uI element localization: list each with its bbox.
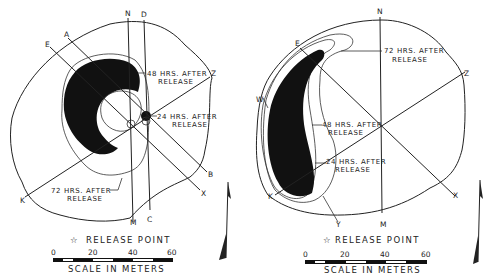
- right-label-W: W: [256, 95, 264, 104]
- left-label-B: B: [208, 170, 213, 179]
- left-scale-bar: 0 20 40 60 SCALE IN METERS: [51, 248, 177, 274]
- left-label-D: D: [141, 10, 147, 19]
- right-scale-tick-60: 60: [421, 250, 431, 259]
- right-annot-48h-1: 48 HRS. AFTER: [322, 121, 382, 129]
- left-annot-48h-1: 48 HRS. AFTER: [147, 70, 207, 78]
- left-scale-tick-60: 60: [167, 248, 177, 257]
- right-annot-72h-1: 72 HRS. AFTER: [384, 47, 444, 55]
- left-label-Z: Z: [211, 69, 216, 78]
- left-annot-24h-1: 24 HRS. AFTER: [157, 113, 217, 121]
- right-plume-24h: [268, 50, 325, 197]
- right-annot-24h-1: 24 HRS. AFTER: [326, 158, 386, 166]
- right-label-Z: Z: [464, 69, 469, 78]
- right-figure: N E Z W K Y M X 72 HRS. AFTER RELEASE 48…: [256, 7, 483, 275]
- left-label-K: K: [20, 196, 26, 205]
- left-scale-tick-20: 20: [88, 248, 98, 257]
- left-label-X: X: [201, 189, 206, 198]
- right-annot-48h-2: RELEASE: [328, 129, 363, 137]
- right-label-N: N: [377, 7, 383, 16]
- left-annot-72h-1: 72 HRS. AFTER: [51, 187, 111, 195]
- right-scale-tick-0: 0: [303, 250, 308, 259]
- right-scale-tick-40: 40: [380, 250, 390, 259]
- diagram-canvas: N D A E Z B X C M K 48 HRS. AFTER RELEAS…: [0, 0, 489, 278]
- right-line-N-M: [380, 17, 382, 213]
- left-annot-72h-2: RELEASE: [67, 195, 102, 203]
- right-north-arrow-icon: [473, 180, 483, 264]
- left-label-C: C: [147, 215, 152, 224]
- left-label-N: N: [125, 9, 131, 18]
- left-figure: N D A E Z B X C M K 48 HRS. AFTER RELEAS…: [10, 9, 231, 274]
- right-scale-title: SCALE IN METERS: [324, 265, 421, 275]
- right-scale-tick-20: 20: [340, 250, 350, 259]
- left-north-arrow-icon: [219, 182, 231, 260]
- left-annot-48h-2: RELEASE: [158, 78, 193, 86]
- right-scale-bar: 0 20 40 60 SCALE IN METERS: [303, 250, 431, 275]
- left-scale-title: SCALE IN METERS: [68, 264, 165, 274]
- left-scale-tick-40: 40: [128, 248, 138, 257]
- right-label-X: X: [453, 191, 458, 200]
- left-label-A: A: [64, 30, 70, 39]
- right-legend-release-point: RELEASE POINT: [335, 235, 420, 245]
- left-scale-tick-0: 0: [51, 248, 56, 257]
- left-plume-48h: [64, 59, 140, 155]
- left-line-Z-K: [25, 77, 210, 197]
- right-release-star-icon: ☆: [323, 235, 332, 245]
- right-annot-24h-2: RELEASE: [335, 166, 370, 174]
- left-release-star-icon: ☆: [70, 235, 79, 245]
- right-label-K: K: [268, 192, 274, 201]
- right-line-Y: [323, 196, 338, 222]
- left-leader-72h: [110, 178, 122, 190]
- right-label-Y: Y: [335, 220, 341, 229]
- left-label-M: M: [130, 218, 136, 227]
- right-label-E: E: [295, 39, 300, 48]
- left-annot-24h-2: RELEASE: [172, 121, 207, 129]
- right-label-M: M: [380, 220, 386, 229]
- right-annot-72h-2: RELEASE: [392, 56, 427, 64]
- left-legend-release-point: RELEASE POINT: [86, 235, 171, 245]
- left-label-E: E: [45, 40, 50, 49]
